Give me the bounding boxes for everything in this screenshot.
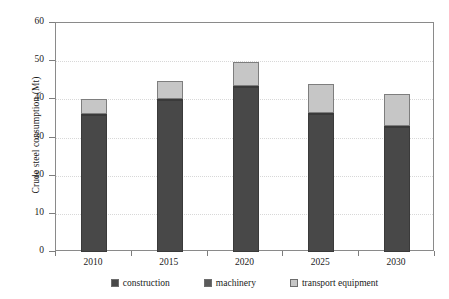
bar-segment-transport[interactable]	[308, 84, 334, 113]
bar-group[interactable]	[81, 23, 107, 252]
chart-figure: Crude steel consumption (Mt) 01020304050…	[0, 0, 449, 299]
legend-swatch-icon	[111, 279, 119, 287]
bar-segment-construction[interactable]	[384, 127, 410, 252]
chart-legend: constructionmachinerytransport equipment	[55, 275, 434, 291]
y-tick-label: 30	[4, 131, 44, 141]
x-tick-label: 2015	[139, 257, 199, 267]
y-tick-label: 0	[4, 245, 44, 255]
bar-group[interactable]	[384, 23, 410, 252]
legend-label: transport equipment	[302, 278, 378, 288]
x-tick-label: 2020	[215, 257, 275, 267]
x-tick-mark	[55, 251, 56, 256]
bar-segment-machinery[interactable]	[157, 99, 183, 101]
x-tick-label: 2025	[290, 257, 350, 267]
y-tick-label: 10	[4, 207, 44, 217]
bar-segment-machinery[interactable]	[308, 113, 334, 115]
legend-item-transport[interactable]: transport equipment	[290, 278, 378, 288]
bar-segment-construction[interactable]	[233, 87, 259, 252]
bar-group[interactable]	[157, 23, 183, 252]
y-tick-label: 60	[4, 16, 44, 26]
x-tick-mark	[131, 251, 132, 256]
x-tick-mark	[282, 251, 283, 256]
y-tick-label: 40	[4, 92, 44, 102]
y-tick-label: 20	[4, 169, 44, 179]
bar-segment-transport[interactable]	[233, 62, 259, 86]
bar-segment-construction[interactable]	[308, 114, 334, 252]
bar-group[interactable]	[233, 23, 259, 252]
plot-area	[55, 22, 434, 251]
legend-label: machinery	[216, 278, 256, 288]
bar-segment-machinery[interactable]	[81, 114, 107, 116]
bar-segment-transport[interactable]	[81, 99, 107, 114]
x-tick-mark	[207, 251, 208, 256]
bar-group[interactable]	[308, 23, 334, 252]
x-tick-label: 2030	[366, 257, 426, 267]
x-tick-label: 2010	[63, 257, 123, 267]
legend-label: construction	[123, 278, 170, 288]
bar-segment-machinery[interactable]	[233, 86, 259, 88]
legend-swatch-icon	[204, 279, 212, 287]
bar-segment-transport[interactable]	[157, 81, 183, 98]
legend-item-machinery[interactable]: machinery	[204, 278, 256, 288]
legend-swatch-icon	[290, 279, 298, 287]
bar-segment-construction[interactable]	[81, 115, 107, 252]
bar-segment-transport[interactable]	[384, 94, 410, 126]
y-tick-label: 50	[4, 54, 44, 64]
x-tick-mark	[434, 251, 435, 256]
legend-item-construction[interactable]: construction	[111, 278, 170, 288]
bar-segment-machinery[interactable]	[384, 126, 410, 128]
bar-segment-construction[interactable]	[157, 99, 183, 252]
x-tick-mark	[358, 251, 359, 256]
